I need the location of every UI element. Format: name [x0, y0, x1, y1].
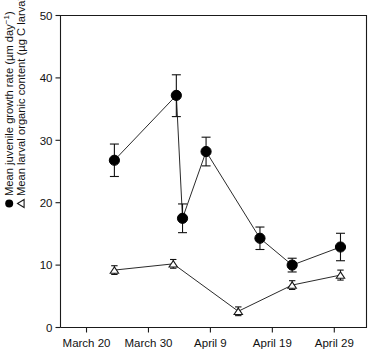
series-line-filled-circle	[114, 95, 340, 265]
data-point-triangle	[288, 282, 296, 288]
data-point-circle	[255, 233, 265, 243]
error-bars	[110, 75, 345, 316]
x-axis-ticks	[87, 328, 335, 333]
series-line-open-triangle	[114, 264, 340, 311]
y-tick-label: 10	[40, 259, 53, 271]
legend-filled-circle-icon	[5, 200, 13, 208]
axis-title-line2-text: Mean larval organic content (µg C larva−…	[14, 0, 27, 196]
plot-frame	[61, 16, 367, 328]
data-point-circle	[177, 213, 187, 223]
axis-title-line1-text: Mean juvenile growth rate (µm day−1)	[2, 11, 15, 196]
line-chart: 01020304050 March 20March 30April 9April…	[0, 0, 376, 359]
data-point-circle	[171, 90, 181, 100]
data-point-circle	[109, 155, 119, 165]
x-tick-label: March 30	[124, 337, 172, 349]
x-axis-tick-labels: March 20March 30April 9April 19April 29	[63, 337, 354, 349]
axis-title-line1-group: Mean juvenile growth rate (µm day−1)	[2, 11, 15, 207]
chart-page: 01020304050 March 20March 30April 9April…	[0, 0, 376, 359]
x-tick-label: April 19	[253, 337, 292, 349]
axis-title-line2-group: Mean larval organic content (µg C larva−…	[14, 0, 27, 208]
data-point-triangle	[336, 272, 344, 278]
legend-open-triangle-icon	[18, 200, 25, 208]
series-lines	[114, 95, 340, 311]
y-axis-ticks	[56, 16, 61, 328]
y-tick-label: 0	[46, 322, 52, 334]
x-tick-label: April 29	[315, 337, 354, 349]
y-tick-label: 20	[40, 197, 53, 209]
y-tick-label: 50	[40, 10, 53, 22]
y-axis-tick-labels: 01020304050	[40, 10, 53, 334]
x-tick-label: April 9	[194, 337, 227, 349]
x-tick-label: March 20	[63, 337, 111, 349]
y-tick-label: 30	[40, 135, 53, 147]
data-point-circle	[287, 260, 297, 270]
y-tick-label: 40	[40, 72, 53, 84]
data-point-circle	[335, 242, 345, 252]
plot-border	[61, 16, 367, 328]
y-axis-title: Mean juvenile growth rate (µm day−1)Mean…	[2, 0, 27, 208]
data-point-circle	[201, 146, 211, 156]
